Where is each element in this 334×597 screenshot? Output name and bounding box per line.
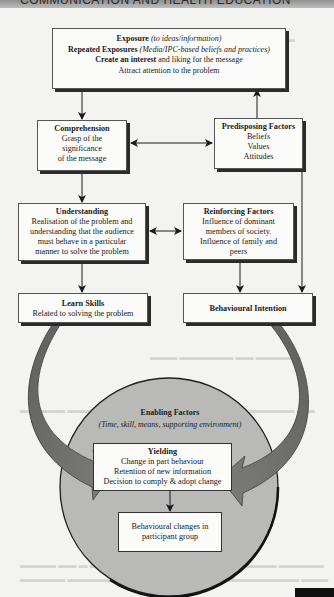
learn-skills-box: Learn Skills Related to solving the prob… [18, 293, 148, 323]
predisposing-factors-box: Predisposing Factors Beliefs Values Atti… [214, 118, 303, 169]
understanding-title: Understanding [19, 207, 145, 217]
behavioural-intention-box: Behavioural Intention [183, 293, 313, 323]
learn-skills-line: Related to solving the problem [19, 309, 147, 319]
exposure-box: Exposure (to ideas/information) Repeated… [52, 28, 286, 89]
create-interest-rest: and liking for the message [158, 55, 242, 64]
understanding-line: must behave in a particular [19, 237, 145, 247]
behavioural-changes-line: Behavioural changes in [119, 522, 221, 532]
enabling-title: Enabling Factors [65, 408, 275, 418]
behavioural-changes-line: participant group [119, 532, 221, 542]
comprehension-box: Comprehension Grasp of the significance … [37, 120, 127, 171]
exposure-label: Exposure [117, 34, 149, 43]
yielding-box: Yielding Change in part behaviour Retent… [93, 443, 232, 491]
yielding-title: Yielding [94, 447, 231, 457]
understanding-line: Realisation of the problem and [19, 217, 145, 227]
comprehension-line: of the message [38, 154, 126, 164]
behavioural-intention-title: Behavioural Intention [184, 304, 312, 314]
exposure-note: (to ideas/information) [151, 34, 221, 43]
behavioural-changes-box: Behavioural changes in participant group [118, 512, 222, 552]
repeated-exposures-label: Repeated Exposures [68, 45, 137, 54]
yielding-line: Decision to comply & adopt change [94, 477, 231, 487]
reinforcing-factors-box: Reinforcing Factors Influence of dominan… [183, 203, 294, 260]
understanding-line: manner to solve the problem [19, 247, 145, 257]
predisposing-line: Beliefs [215, 132, 302, 142]
enabling-factors-label: Enabling Factors (Time, skill, means, su… [65, 408, 275, 430]
reinforcing-title: Reinforcing Factors [184, 207, 293, 217]
comprehension-line: Grasp of the [38, 134, 126, 144]
create-interest-label: Create an interest [95, 55, 156, 64]
comprehension-line: significance [38, 144, 126, 154]
reinforcing-line: members of society. [184, 227, 293, 237]
attract-attention-text: Attract attention to the problem [53, 66, 285, 77]
comprehension-title: Comprehension [38, 124, 126, 134]
page-edge-marker [295, 588, 334, 597]
yielding-line: Change in part behaviour [94, 457, 231, 467]
repeated-exposures-note: (Media/IPC-based beliefs and practices) [140, 45, 270, 54]
understanding-line: understanding that the audience [19, 227, 145, 237]
reinforcing-line: Influence of family and [184, 237, 293, 247]
predisposing-title: Predisposing Factors [215, 122, 302, 132]
yielding-line: Retention of new information [94, 467, 231, 477]
enabling-subtitle: (Time, skill, means, supporting environm… [65, 420, 275, 430]
predisposing-line: Attitudes [215, 152, 302, 162]
predisposing-line: Values [215, 142, 302, 152]
understanding-box: Understanding Realisation of the problem… [18, 203, 146, 261]
learn-skills-title: Learn Skills [19, 299, 147, 309]
reinforcing-line: peers [184, 247, 293, 257]
reinforcing-line: Influence of dominant [184, 217, 293, 227]
